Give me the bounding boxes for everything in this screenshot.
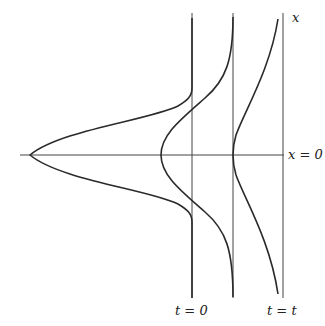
x-zero-label-text: x = 0	[288, 147, 323, 162]
intermediate-profile-curve	[161, 17, 233, 297]
later-profile-curve	[233, 19, 278, 294]
tt-label-text: t = t	[267, 303, 297, 318]
diagram-canvas	[0, 0, 325, 326]
x-axis-label: x	[292, 10, 299, 25]
t0-label: t = 0	[175, 303, 208, 318]
t0-label-text: t = 0	[175, 303, 208, 318]
initial-profile-curve	[30, 18, 192, 298]
x-zero-label: x = 0	[288, 147, 323, 162]
tt-label: t = t	[267, 303, 297, 318]
diagram: x x = 0 t = 0 t = t	[0, 0, 325, 326]
x-axis-label-text: x	[292, 10, 299, 25]
